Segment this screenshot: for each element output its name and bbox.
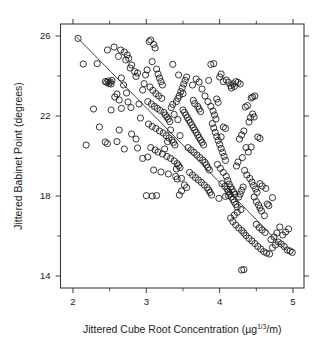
data-point [206, 77, 212, 83]
data-point [96, 124, 102, 130]
x-axis-title-prefix: Jittered Cube Root Concentration (µg [83, 323, 257, 335]
data-point [83, 142, 89, 148]
data-point [128, 105, 134, 111]
data-point [220, 124, 226, 130]
data-point [148, 37, 154, 43]
data-point [118, 105, 124, 111]
x-tick-label: 2 [70, 296, 75, 307]
data-point [149, 59, 155, 65]
data-point [121, 146, 127, 152]
data-point [153, 193, 159, 199]
data-point [175, 72, 181, 78]
data-point [233, 163, 239, 169]
data-point [212, 129, 218, 135]
data-point [257, 135, 263, 141]
data-point [177, 133, 183, 139]
plot-frame [61, 24, 305, 288]
axis-tick-labels: 234514182226 [40, 30, 296, 307]
data-point [221, 153, 227, 159]
data-point [235, 159, 241, 165]
regression-line [77, 37, 287, 251]
y-tick-label: 26 [40, 30, 51, 41]
y-axis-title: Jittered Babinet Point (degrees) [12, 82, 24, 230]
data-point [146, 39, 152, 45]
data-point [114, 139, 120, 145]
data-point [266, 203, 272, 209]
data-point [133, 136, 139, 142]
fit-line [77, 37, 287, 251]
data-point [209, 121, 215, 127]
data-point [137, 115, 143, 121]
data-point [115, 53, 121, 59]
data-points [75, 35, 295, 273]
data-point [116, 127, 122, 133]
data-point [222, 125, 228, 131]
data-point [136, 101, 142, 107]
data-point [171, 111, 177, 117]
data-point [217, 141, 223, 147]
data-point [218, 145, 224, 151]
data-point [111, 44, 117, 50]
data-point [151, 41, 157, 47]
data-point [216, 195, 222, 201]
data-point [143, 193, 149, 199]
data-point [140, 87, 146, 93]
plot-canvas: 234514182226 Jittered Cube Root Concentr… [0, 0, 325, 356]
data-point [222, 157, 228, 163]
data-point [252, 93, 258, 99]
y-tick-label: 22 [40, 110, 51, 121]
data-point [90, 106, 96, 112]
data-point [129, 131, 135, 137]
data-point [80, 61, 86, 67]
data-point [181, 81, 187, 87]
data-point [165, 171, 171, 177]
data-point [170, 61, 176, 67]
data-point [269, 195, 275, 201]
scatter-plot-figure: 234514182226 Jittered Cube Root Concentr… [0, 0, 325, 356]
data-point [264, 201, 270, 207]
data-point [249, 179, 255, 185]
y-tick-label: 14 [40, 270, 51, 281]
data-point [151, 167, 157, 173]
plot-border [61, 24, 305, 288]
data-point [211, 125, 217, 131]
data-point [261, 213, 267, 219]
x-tick-label: 5 [290, 296, 295, 307]
data-point [162, 146, 168, 152]
data-point [277, 224, 283, 230]
axis-ticks [56, 19, 310, 293]
data-point [156, 75, 162, 81]
data-point [158, 169, 164, 175]
x-axis-title: Jittered Cube Root Concentration (µg1/3/… [83, 323, 282, 335]
data-point [118, 47, 124, 53]
data-point [211, 112, 217, 118]
y-tick-label: 18 [40, 190, 51, 201]
data-point [289, 249, 295, 255]
data-point [123, 90, 129, 96]
data-point [189, 82, 195, 88]
data-point [94, 61, 100, 67]
data-point [199, 86, 205, 92]
x-tick-label: 4 [217, 296, 222, 307]
data-point [104, 47, 110, 53]
x-axis-title-suffix: /m) [266, 323, 281, 335]
data-point [164, 114, 170, 120]
data-point [134, 145, 140, 151]
data-point [116, 97, 122, 103]
data-point [255, 134, 261, 140]
data-point [244, 103, 250, 109]
data-point [108, 107, 114, 113]
data-point [152, 45, 158, 51]
data-point [225, 177, 231, 183]
data-point [141, 81, 147, 87]
x-tick-label: 3 [144, 296, 149, 307]
x-axis-title-exponent: 1/3 [257, 323, 266, 330]
data-point [246, 119, 252, 125]
data-point [219, 149, 225, 155]
data-point [242, 104, 248, 110]
